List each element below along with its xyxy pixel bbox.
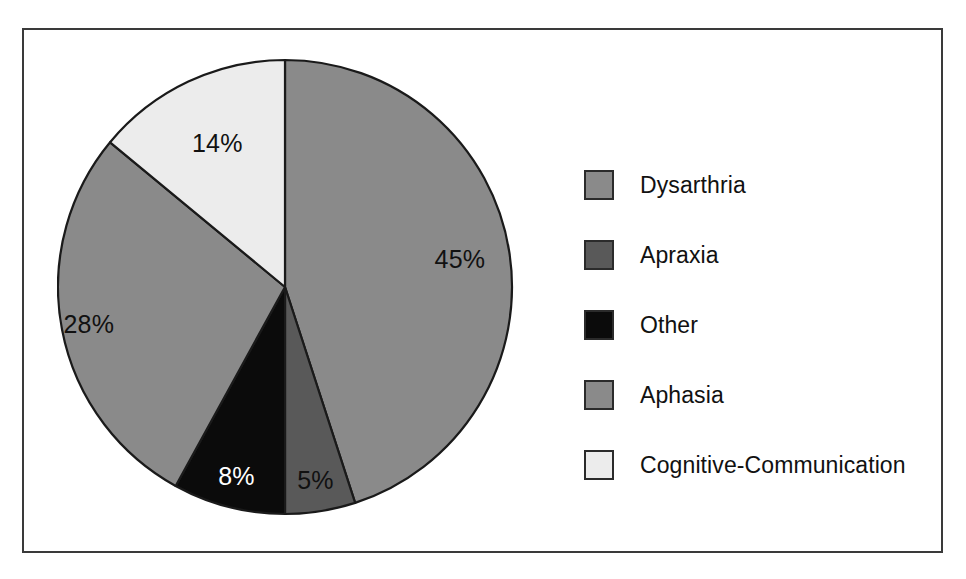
legend-item[interactable]: Aphasia — [584, 360, 934, 430]
legend-item-label: Other — [640, 312, 698, 339]
legend-item-label: Cognitive-Communication — [640, 452, 906, 479]
legend-color-swatch — [584, 450, 614, 480]
legend-color-swatch — [584, 240, 614, 270]
legend-item[interactable]: Cognitive-Communication — [584, 430, 934, 500]
figure-frame-border: 45%5%8%28%14% DysarthriaApraxiaOtherApha… — [22, 28, 943, 553]
legend-item-label: Aphasia — [640, 382, 724, 409]
pie-chart: 45%5%8%28%14% — [57, 46, 537, 538]
figure-root: 45%5%8%28%14% DysarthriaApraxiaOtherApha… — [0, 0, 966, 579]
legend-color-swatch — [584, 310, 614, 340]
legend-item-label: Dysarthria — [640, 172, 746, 199]
legend-color-swatch — [584, 170, 614, 200]
pie-slice-group — [58, 60, 512, 514]
chart-legend: DysarthriaApraxiaOtherAphasiaCognitive-C… — [584, 150, 934, 500]
pie-chart-svg — [57, 46, 527, 526]
legend-item[interactable]: Apraxia — [584, 220, 934, 290]
legend-item[interactable]: Dysarthria — [584, 150, 934, 220]
legend-item[interactable]: Other — [584, 290, 934, 360]
legend-item-label: Apraxia — [640, 242, 719, 269]
legend-color-swatch — [584, 380, 614, 410]
